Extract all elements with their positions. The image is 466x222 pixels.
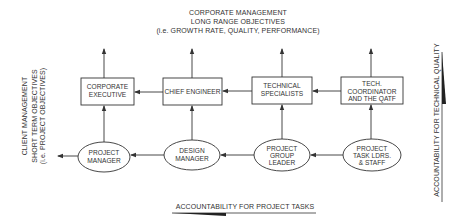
right-label: ACCOUNTABILITY FOR TECHNICAL QUALITY xyxy=(433,43,446,202)
box-tech-coordinator: TECH. COORDINATOR AND THE QATF xyxy=(341,77,403,104)
box-corporate-executive: CORPORATE EXECUTIVE xyxy=(81,78,134,105)
ellipse-project-group-leader: PROJECT GROUP LEADER xyxy=(254,139,310,171)
left-label-line3: (i.e. PROJECT OBJECTIVES) xyxy=(39,68,47,165)
up-arrows xyxy=(104,49,371,78)
ellipse-text: DESIGN xyxy=(179,147,205,154)
box-text: CHIEF ENGINEER xyxy=(164,88,220,95)
quality-wedge-icon xyxy=(442,52,446,104)
top-header-line1: CORPORATE MANAGEMENT xyxy=(189,9,288,16)
box-text: SPECIALISTS xyxy=(261,90,304,97)
left-label-line2: SHORT TERM OBJECTIVES xyxy=(31,69,38,163)
ellipse-design-manager: DESIGN MANAGER xyxy=(164,140,220,170)
bottom-label-text: ACCOUNTABILITY FOR PROJECT TASKS xyxy=(176,203,315,210)
box-text: COORDINATOR xyxy=(348,88,397,95)
ellipse-text: PROJECT xyxy=(357,145,388,152)
ellipse-text: GROUP xyxy=(270,152,295,159)
ellipse-text: PROJECT xyxy=(89,149,120,156)
right-label-text: ACCOUNTABILITY FOR TECHNICAL QUALITY xyxy=(433,43,441,197)
tasks-wedge-icon xyxy=(172,213,226,216)
ellipse-text: MANAGER xyxy=(87,157,121,164)
ellipse-text: LEADER xyxy=(269,159,296,166)
bottom-label: ACCOUNTABILITY FOR PROJECT TASKS xyxy=(172,203,316,216)
box-text: CORPORATE xyxy=(87,83,129,90)
box-chief-engineer: CHIEF ENGINEER xyxy=(163,78,222,105)
top-header-line3: (i.e. GROWTH RATE, QUALITY, PERFORMANCE) xyxy=(156,27,319,35)
box-text: TECHNICAL xyxy=(263,82,301,89)
box-text: AND THE QATF xyxy=(348,95,396,103)
top-header-line2: LONG RANGE OBJECTIVES xyxy=(191,18,286,25)
ellipse-text: MANAGER xyxy=(175,155,209,162)
ellipse-text: PROJECT xyxy=(267,145,298,152)
organization-diagram: CORPORATE MANAGEMENT LONG RANGE OBJECTIV… xyxy=(0,0,466,222)
left-label: CLIENT MANAGEMENT SHORT TERM OBJECTIVES … xyxy=(21,68,47,165)
ellipse-text: & STAFF xyxy=(359,159,386,166)
ellipse-to-box-arrows xyxy=(104,105,371,142)
box-text: EXECUTIVE xyxy=(89,91,127,98)
top-header: CORPORATE MANAGEMENT LONG RANGE OBJECTIV… xyxy=(156,9,319,35)
ellipse-project-manager: PROJECT MANAGER xyxy=(78,142,130,172)
box-text: TECH. xyxy=(362,80,382,87)
ellipse-project-task-leaders-staff: PROJECT TASK LDRS. & STAFF xyxy=(343,139,401,171)
ellipse-text: TASK LDRS. xyxy=(353,152,391,159)
left-label-line1: CLIENT MANAGEMENT xyxy=(21,76,28,155)
box-technical-specialists: TECHNICAL SPECIALISTS xyxy=(252,77,312,104)
